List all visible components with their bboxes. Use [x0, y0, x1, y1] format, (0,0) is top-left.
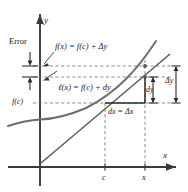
x-axis-label: x	[163, 151, 167, 160]
equation-linear-label: ℓ(x) = f(c) + dy	[58, 83, 111, 92]
measurement-error	[22, 52, 38, 90]
leader-lx-head	[43, 77, 50, 80]
y-axis-arrowhead	[36, 14, 44, 24]
y-tick-label-fc: f(c)	[12, 98, 23, 106]
point-linear-value	[143, 75, 147, 79]
axes-group	[8, 14, 176, 186]
dy-arrow-top	[151, 77, 156, 82]
delta-y-arrow-bottom	[174, 98, 179, 103]
differentials-figure: y x c x f(c) Error f(x) = f(c) + Δy ℓ(x)…	[0, 0, 188, 192]
delta-y-arrow-top	[174, 66, 179, 71]
leader-lines-group	[42, 52, 57, 81]
delta-y-label: Δy	[165, 77, 173, 85]
equation-actual-label: f(x) = f(c) + Δy	[55, 42, 107, 51]
point-actual-value	[143, 64, 147, 68]
dy-arrow-bottom	[151, 98, 156, 103]
y-axis-label: y	[44, 16, 48, 25]
error-arrow-upper-head	[28, 61, 33, 67]
error-arrow-lower-head	[28, 77, 33, 83]
leader-fx-head	[42, 63, 49, 66]
x-tick-label-c: c	[102, 173, 106, 182]
leader-fx	[44, 52, 54, 64]
x-axis-arrowhead	[166, 163, 176, 171]
error-label: Error	[9, 37, 27, 46]
leader-lx	[45, 71, 57, 79]
tangent-line	[41, 54, 170, 163]
figure-canvas	[0, 0, 188, 192]
x-tick-label-x: x	[142, 173, 146, 182]
dx-delta-x-label: dx = Δx	[108, 108, 133, 116]
dy-label: dy	[146, 86, 154, 94]
